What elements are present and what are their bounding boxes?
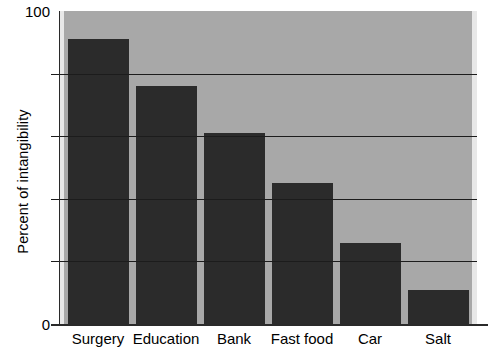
bar-chart: Percent of intangibility 100 0 SurgeryEd… <box>0 0 496 363</box>
x-axis-label-surgery: Surgery <box>64 331 132 348</box>
gridline-80 <box>60 74 477 75</box>
y-axis-tick-label-100: 100 <box>10 4 50 19</box>
x-axis-label-car: Car <box>336 331 404 348</box>
x-axis-label-bank: Bank <box>200 331 268 348</box>
bar-car <box>340 243 401 324</box>
plot-area <box>60 11 477 324</box>
y-axis-tick-label-0: 0 <box>10 317 50 332</box>
gridline-20 <box>60 261 477 262</box>
x-axis-label-education: Education <box>132 331 200 348</box>
bar-series <box>60 11 477 324</box>
x-axis-line <box>51 324 488 326</box>
bar-salt <box>408 290 469 324</box>
x-axis-label-salt: Salt <box>404 331 472 348</box>
gridline-60 <box>60 136 477 137</box>
bar-surgery <box>68 39 129 324</box>
x-axis-label-fast-food: Fast food <box>268 331 336 348</box>
y-axis-title: Percent of intangibility <box>12 0 34 363</box>
gridline-40 <box>60 199 477 200</box>
bar-education <box>136 86 197 324</box>
bar-bank <box>204 133 265 324</box>
bar-fast-food <box>272 183 333 324</box>
